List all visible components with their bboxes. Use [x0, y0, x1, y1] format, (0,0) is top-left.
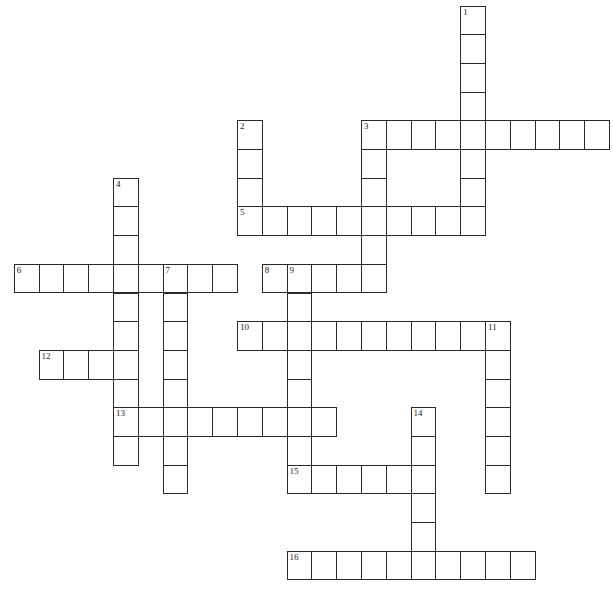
cell-letter-input[interactable]: [139, 408, 163, 436]
cell-letter-input[interactable]: [337, 552, 361, 580]
cell-letter-input[interactable]: [164, 466, 188, 494]
cell-letter-input[interactable]: [412, 466, 436, 494]
cell-letter-input[interactable]: [89, 265, 113, 293]
cell-letter-input[interactable]: [238, 322, 262, 350]
cell-letter-input[interactable]: [412, 121, 436, 149]
cell-letter-input[interactable]: [40, 265, 64, 293]
cell-letter-input[interactable]: [288, 294, 312, 322]
crossword-cell[interactable]: [113, 264, 139, 294]
cell-letter-input[interactable]: [238, 207, 262, 235]
cell-letter-input[interactable]: [213, 265, 237, 293]
cell-letter-input[interactable]: [288, 322, 312, 350]
cell-letter-input[interactable]: [164, 437, 188, 465]
cell-letter-input[interactable]: [288, 265, 312, 293]
cell-letter-input[interactable]: [337, 265, 361, 293]
crossword-cell[interactable]: [212, 264, 238, 294]
crossword-cell[interactable]: 7: [163, 264, 189, 294]
cell-letter-input[interactable]: [461, 322, 485, 350]
crossword-cell[interactable]: [336, 551, 362, 581]
crossword-cell[interactable]: [361, 178, 387, 208]
cell-letter-input[interactable]: [362, 265, 386, 293]
cell-letter-input[interactable]: [461, 35, 485, 63]
cell-letter-input[interactable]: [387, 121, 411, 149]
crossword-cell[interactable]: [510, 120, 536, 150]
cell-letter-input[interactable]: [461, 207, 485, 235]
crossword-cell[interactable]: [361, 235, 387, 265]
crossword-cell[interactable]: [287, 350, 313, 380]
crossword-cell[interactable]: [163, 379, 189, 409]
crossword-cell[interactable]: 11: [485, 321, 511, 351]
crossword-cell[interactable]: [361, 465, 387, 495]
cell-letter-input[interactable]: [188, 265, 212, 293]
crossword-cell[interactable]: [187, 264, 213, 294]
crossword-cell[interactable]: 3: [361, 120, 387, 150]
cell-letter-input[interactable]: [412, 437, 436, 465]
cell-letter-input[interactable]: [387, 322, 411, 350]
crossword-cell[interactable]: [386, 120, 412, 150]
cell-letter-input[interactable]: [15, 265, 39, 293]
crossword-cell[interactable]: 12: [39, 350, 65, 380]
cell-letter-input[interactable]: [164, 380, 188, 408]
cell-letter-input[interactable]: [461, 121, 485, 149]
cell-letter-input[interactable]: [114, 207, 138, 235]
cell-letter-input[interactable]: [412, 322, 436, 350]
cell-letter-input[interactable]: [188, 408, 212, 436]
cell-letter-input[interactable]: [164, 265, 188, 293]
crossword-cell[interactable]: [386, 551, 412, 581]
cell-letter-input[interactable]: [114, 408, 138, 436]
cell-letter-input[interactable]: [114, 179, 138, 207]
crossword-cell[interactable]: [485, 120, 511, 150]
crossword-cell[interactable]: [311, 321, 337, 351]
crossword-cell[interactable]: [311, 264, 337, 294]
cell-letter-input[interactable]: [164, 408, 188, 436]
crossword-cell[interactable]: [485, 465, 511, 495]
crossword-cell[interactable]: [63, 264, 89, 294]
crossword-cell[interactable]: [386, 206, 412, 236]
crossword-cell[interactable]: [361, 551, 387, 581]
cell-letter-input[interactable]: [263, 207, 287, 235]
crossword-cell[interactable]: [361, 206, 387, 236]
cell-letter-input[interactable]: [436, 207, 460, 235]
crossword-cell[interactable]: [411, 465, 437, 495]
crossword-cell[interactable]: [435, 206, 461, 236]
cell-letter-input[interactable]: [536, 121, 560, 149]
cell-letter-input[interactable]: [238, 179, 262, 207]
cell-letter-input[interactable]: [114, 294, 138, 322]
cell-letter-input[interactable]: [312, 408, 336, 436]
crossword-cell[interactable]: 1: [460, 6, 486, 36]
crossword-cell[interactable]: [113, 206, 139, 236]
crossword-cell[interactable]: 9: [287, 264, 313, 294]
crossword-cell[interactable]: [287, 293, 313, 323]
cell-letter-input[interactable]: [288, 408, 312, 436]
cell-letter-input[interactable]: [486, 408, 510, 436]
crossword-cell[interactable]: [163, 293, 189, 323]
cell-letter-input[interactable]: [64, 265, 88, 293]
cell-letter-input[interactable]: [362, 150, 386, 178]
crossword-cell[interactable]: [336, 465, 362, 495]
cell-letter-input[interactable]: [114, 236, 138, 264]
cell-letter-input[interactable]: [164, 294, 188, 322]
cell-letter-input[interactable]: [312, 322, 336, 350]
crossword-cell[interactable]: [39, 264, 65, 294]
crossword-cell[interactable]: [485, 551, 511, 581]
cell-letter-input[interactable]: [511, 552, 535, 580]
crossword-cell[interactable]: [163, 350, 189, 380]
cell-letter-input[interactable]: [213, 408, 237, 436]
crossword-cell[interactable]: [460, 178, 486, 208]
cell-letter-input[interactable]: [461, 179, 485, 207]
crossword-cell[interactable]: 8: [262, 264, 288, 294]
crossword-cell[interactable]: [336, 321, 362, 351]
cell-letter-input[interactable]: [362, 236, 386, 264]
cell-letter-input[interactable]: [362, 121, 386, 149]
crossword-cell[interactable]: [361, 264, 387, 294]
cell-letter-input[interactable]: [238, 121, 262, 149]
cell-letter-input[interactable]: [362, 466, 386, 494]
crossword-cell[interactable]: [287, 436, 313, 466]
crossword-cell[interactable]: 4: [113, 178, 139, 208]
crossword-cell[interactable]: [559, 120, 585, 150]
cell-letter-input[interactable]: [387, 466, 411, 494]
crossword-cell[interactable]: [411, 436, 437, 466]
crossword-cell[interactable]: [63, 350, 89, 380]
crossword-cell[interactable]: [485, 407, 511, 437]
cell-letter-input[interactable]: [585, 121, 609, 149]
